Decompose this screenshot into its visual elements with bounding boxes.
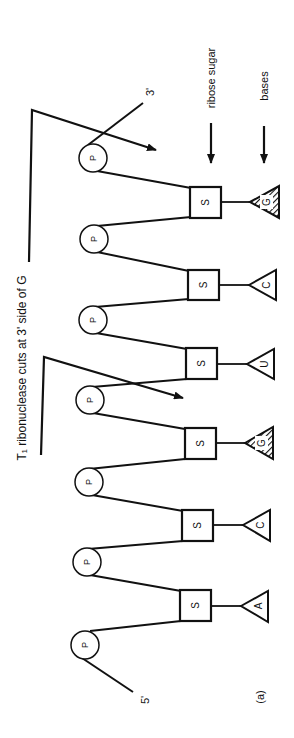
backbone-link xyxy=(88,541,183,549)
base-label: C xyxy=(255,521,266,528)
backbone-link xyxy=(96,333,187,349)
backbone-link xyxy=(90,575,181,591)
backbone-link xyxy=(90,621,181,631)
panel-label: (a) xyxy=(254,690,266,703)
sugar-label: S xyxy=(190,602,201,609)
phosphate-label: P xyxy=(82,559,92,565)
phosphate-label: P xyxy=(89,236,99,242)
base-label: A xyxy=(253,602,264,609)
phosphate-label: P xyxy=(85,397,95,403)
nucleotide-units: S G S C S U S G xyxy=(180,186,279,622)
three-prime-tail xyxy=(88,103,143,145)
three-prime-label: 3' xyxy=(144,88,156,96)
nucleotide-2: S C xyxy=(182,510,270,541)
base-label: G xyxy=(256,439,267,447)
phosphate-3: P xyxy=(79,306,107,334)
phosphate-2: P xyxy=(80,225,108,253)
nucleotide-6: S G xyxy=(190,186,279,218)
sugar-label: S xyxy=(196,360,207,367)
ribose-sugar-label: ribose sugar xyxy=(205,47,217,108)
phosphate-group: P P P P P P P xyxy=(71,144,108,659)
phosphate-6: P xyxy=(73,548,101,576)
backbone-link xyxy=(97,171,191,188)
backbone-link xyxy=(95,299,189,307)
phosphate-1: P xyxy=(79,144,107,172)
legend: ribose sugar bases xyxy=(205,47,270,163)
sugar-label: S xyxy=(195,440,206,447)
phosphate-label: P xyxy=(88,317,98,323)
base-label: C xyxy=(261,281,272,288)
sugar-label: S xyxy=(198,281,209,288)
backbone-link xyxy=(97,217,191,226)
nucleotide-5: S C xyxy=(188,270,276,300)
backbone-link xyxy=(97,252,189,271)
backbone-link xyxy=(92,495,183,511)
nucleotide-3: S G xyxy=(185,427,273,459)
rna-strand-diagram: P P P P P P P S xyxy=(0,0,294,738)
nucleotide-1: S A xyxy=(180,590,268,622)
backbone-link xyxy=(93,413,185,429)
cut-annotation: T₁ ribonuclease cuts at 3' side of G xyxy=(15,275,29,460)
five-prime-label: 5' xyxy=(139,696,151,704)
bases-label: bases xyxy=(258,71,270,101)
phosphate-4: P xyxy=(76,386,104,414)
phosphate-label: P xyxy=(88,155,98,161)
phosphate-label: P xyxy=(80,642,90,648)
cut-arrow-2 xyxy=(41,357,183,455)
five-prime-tail xyxy=(79,656,133,692)
backbone-link xyxy=(89,459,185,469)
nucleotide-4: S U xyxy=(186,348,274,379)
base-label: G xyxy=(261,198,272,206)
base-label: U xyxy=(259,360,270,367)
phosphate-5: P xyxy=(75,468,103,496)
sugar-label: S xyxy=(200,199,211,206)
phosphate-7: P xyxy=(71,631,99,659)
sugar-label: S xyxy=(192,522,203,529)
phosphate-label: P xyxy=(84,479,94,485)
